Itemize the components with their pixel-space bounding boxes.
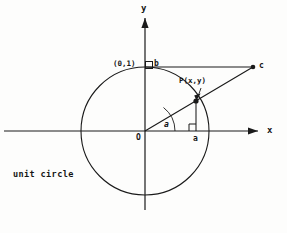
point-a-label: a — [193, 135, 198, 143]
x-axis-arrowhead — [248, 127, 258, 134]
point-b-label: b — [154, 60, 159, 68]
point-p-marker — [193, 98, 198, 103]
origin-label: O — [136, 134, 141, 142]
diagram-svg — [0, 0, 287, 233]
unit-circle-caption: unit circle — [13, 170, 74, 179]
y-axis-label: y — [141, 4, 146, 13]
unit-circle-diagram: y x (0,1) b c P(x,y) O a a unit circle — [0, 0, 287, 233]
y-axis-arrowhead — [141, 18, 148, 28]
point-p-label: P(x,y) — [179, 77, 206, 85]
point-c-label: c — [259, 62, 264, 70]
x-axis-label: x — [267, 126, 272, 135]
angle-alpha-label: a — [164, 121, 169, 129]
unit-point-label: (0,1) — [113, 60, 136, 68]
right-angle-marker-a — [189, 124, 196, 131]
point-c-marker — [251, 65, 256, 70]
